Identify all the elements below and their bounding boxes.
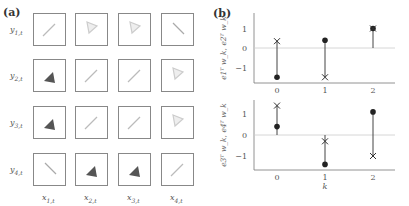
y-tick-label: 1 — [242, 110, 247, 119]
y-axis-label: e3ᵀ w_k, e4ᵀ w_k — [219, 103, 228, 167]
stem-charts: −101012e1ᵀ w_k, e2ᵀ w_k−101012ke3ᵀ w_k, … — [0, 0, 409, 206]
x-tick-label: 1 — [322, 86, 327, 95]
y-tick-label: −1 — [235, 152, 247, 161]
circle-marker — [322, 37, 328, 43]
circle-marker — [274, 74, 280, 80]
x-tick-label: 2 — [370, 173, 375, 182]
x-tick-label: 0 — [274, 173, 279, 182]
circle-marker — [274, 124, 280, 130]
x-axis-label: k — [323, 182, 328, 191]
x-tick-label: 1 — [322, 173, 327, 182]
x-tick-label: 2 — [370, 86, 375, 95]
y-tick-label: 0 — [242, 44, 247, 53]
y-axis-label: e1ᵀ w_k, e2ᵀ w_k — [219, 16, 228, 80]
y-tick-label: 0 — [242, 131, 247, 140]
circle-marker — [370, 109, 376, 115]
circle-marker — [322, 162, 328, 168]
y-tick-label: 1 — [242, 25, 247, 34]
y-tick-label: −1 — [235, 64, 247, 73]
x-tick-label: 0 — [274, 86, 279, 95]
